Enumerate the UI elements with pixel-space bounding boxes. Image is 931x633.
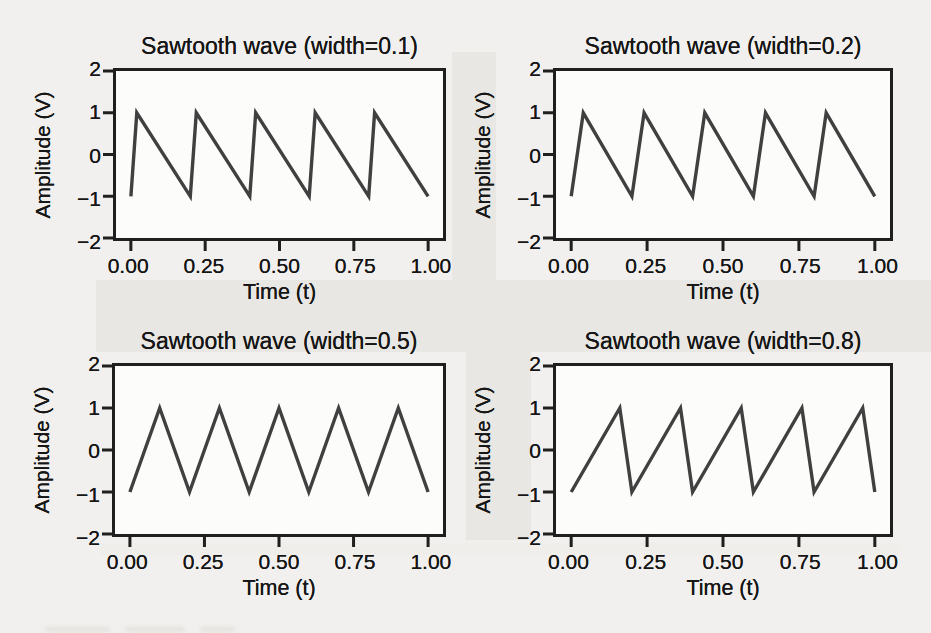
x-tick-labels: 0.00 0.25 0.50 0.75 1.00 <box>112 551 446 573</box>
y-tick-label: 0 <box>529 440 541 461</box>
x-tick-label: 0.25 <box>625 255 666 276</box>
x-tick-label: 0.75 <box>335 255 376 276</box>
x-axis-label: Time (t) <box>112 577 446 599</box>
y-tick-label: −1 <box>77 187 101 208</box>
y-tick-labels: 2 1 0 −1 −2 <box>50 363 100 537</box>
x-tick-label: 0.75 <box>334 551 375 572</box>
cropped-caption-smudge <box>200 627 235 632</box>
subplot-title: Sawtooth wave (width=0.1) <box>113 32 446 60</box>
plot-area <box>553 68 893 241</box>
y-tick-label: 1 <box>89 101 101 122</box>
cropped-caption-smudge <box>125 627 185 632</box>
plot-area <box>112 363 446 537</box>
subplot-title: Sawtooth wave (width=0.2) <box>553 32 893 60</box>
y-tick-label: 0 <box>529 144 541 165</box>
y-tick-label: 1 <box>529 101 541 122</box>
plot-area <box>553 363 893 537</box>
x-tick-label: 0.50 <box>703 255 744 276</box>
sawtooth-waveform-svg <box>556 366 890 534</box>
plot-area <box>113 68 446 241</box>
x-tick-label: 0.00 <box>548 255 589 276</box>
y-tick-label: −1 <box>517 187 541 208</box>
y-tick-label: 2 <box>529 353 541 374</box>
x-tick-label: 0.00 <box>108 255 149 276</box>
sawtooth-waveform-svg <box>116 71 443 238</box>
x-tick-labels: 0.00 0.25 0.50 0.75 1.00 <box>113 255 446 277</box>
x-axis-label: Time (t) <box>553 281 893 303</box>
x-tick-label: 1.00 <box>410 551 451 572</box>
x-tick-label: 0.25 <box>625 551 666 572</box>
x-tick-label: 0.50 <box>703 551 744 572</box>
y-tick-label: −2 <box>517 231 541 252</box>
subplot-title: Sawtooth wave (width=0.5) <box>112 327 446 355</box>
x-tick-label: 0.75 <box>780 551 821 572</box>
y-tick-label: −2 <box>76 527 100 548</box>
scanned-figure-page: Sawtooth wave (width=0.1) Amplitude (V) … <box>0 0 931 633</box>
y-tick-label: 2 <box>89 58 101 79</box>
x-tick-label: 1.00 <box>410 255 451 276</box>
y-tick-label: −2 <box>517 527 541 548</box>
x-tick-label: 0.00 <box>548 551 589 572</box>
y-tick-label: 0 <box>89 144 101 165</box>
x-tick-label: 1.00 <box>857 255 898 276</box>
sawtooth-waveform-svg <box>556 71 890 238</box>
y-tick-label: 1 <box>88 396 100 417</box>
x-tick-labels: 0.00 0.25 0.50 0.75 1.00 <box>553 551 893 573</box>
subplot-title: Sawtooth wave (width=0.8) <box>553 327 893 355</box>
y-tick-label: 2 <box>529 58 541 79</box>
y-tick-label: 2 <box>88 353 100 374</box>
x-tick-labels: 0.00 0.25 0.50 0.75 1.00 <box>553 255 893 277</box>
x-tick-label: 0.50 <box>259 255 300 276</box>
cropped-caption-smudge <box>45 627 110 632</box>
sawtooth-waveform-svg <box>115 366 443 534</box>
x-tick-label: 0.25 <box>183 551 224 572</box>
y-tick-labels: 2 1 0 −1 −2 <box>491 363 541 537</box>
y-tick-label: 1 <box>529 396 541 417</box>
y-tick-labels: 2 1 0 −1 −2 <box>491 68 541 241</box>
x-tick-label: 1.00 <box>857 551 898 572</box>
x-tick-label: 0.25 <box>183 255 224 276</box>
y-tick-labels: 2 1 0 −1 −2 <box>51 68 101 241</box>
y-tick-label: −2 <box>77 231 101 252</box>
x-tick-label: 0.00 <box>107 551 148 572</box>
x-tick-label: 0.50 <box>259 551 300 572</box>
x-axis-label: Time (t) <box>113 281 446 303</box>
x-axis-label: Time (t) <box>553 577 893 599</box>
y-tick-label: 0 <box>88 440 100 461</box>
x-tick-label: 0.75 <box>780 255 821 276</box>
y-tick-label: −1 <box>517 483 541 504</box>
y-tick-label: −1 <box>76 483 100 504</box>
